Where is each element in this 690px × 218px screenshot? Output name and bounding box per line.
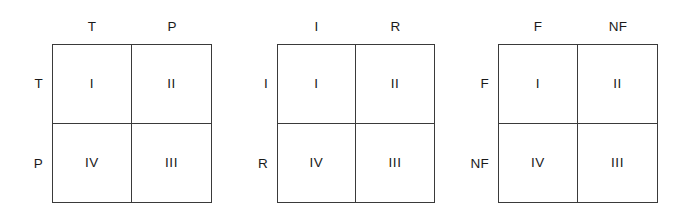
- matrix-3-row-label-1: F: [446, 44, 498, 124]
- matrix-1-column-header-2: P: [132, 18, 212, 36]
- matrix-2-column-headers: I R: [277, 18, 435, 36]
- matrix-1-quadrant-bottom-left: IV: [53, 124, 132, 203]
- matrix-1-column-header-1: T: [52, 18, 132, 36]
- matrix-2-quadrant-top-left: I: [278, 45, 356, 124]
- matrix-1-quadrant-top-left: I: [53, 45, 132, 124]
- matrix-3: F NF F NF I II IV III: [446, 0, 690, 218]
- matrix-2-row-label-1: I: [235, 44, 277, 124]
- matrix-2-grid: I II IV III: [277, 44, 435, 203]
- matrix-1-row-label-1: T: [10, 44, 52, 124]
- matrix-3-grid: I II IV III: [498, 44, 658, 203]
- matrix-3-column-header-1: F: [498, 18, 578, 36]
- matrix-2-row-labels: I R: [235, 44, 277, 203]
- matrix-1-grid: I II IV III: [52, 44, 212, 203]
- matrix-3-quadrant-bottom-right: III: [578, 124, 657, 203]
- matrix-3-quadrant-bottom-left: IV: [499, 124, 578, 203]
- matrix-2-quadrant-bottom-left: IV: [278, 124, 356, 203]
- matrix-1-quadrant-top-right: II: [132, 45, 211, 124]
- matrix-3-quadrant-top-right: II: [578, 45, 657, 124]
- matrix-2-quadrant-top-right: II: [356, 45, 434, 124]
- matrix-2-column-header-2: R: [356, 18, 435, 36]
- matrix-1-column-headers: T P: [52, 18, 212, 36]
- matrix-3-column-header-2: NF: [578, 18, 658, 36]
- matrix-2-quadrant-bottom-right: III: [356, 124, 434, 203]
- matrix-3-column-headers: F NF: [498, 18, 658, 36]
- matrix-2-row-label-2: R: [235, 124, 277, 204]
- matrix-1-row-label-2: P: [10, 124, 52, 204]
- matrix-3-row-label-2: NF: [446, 124, 498, 204]
- matrix-3-quadrant-top-left: I: [499, 45, 578, 124]
- matrix-1-quadrant-bottom-right: III: [132, 124, 211, 203]
- matrix-2-column-header-1: I: [277, 18, 356, 36]
- matrix-3-row-labels: F NF: [446, 44, 498, 203]
- figure-canvas: T P T P I II IV III I R I R I II IV III: [0, 0, 690, 218]
- matrix-1: T P T P I II IV III: [0, 0, 230, 218]
- matrix-1-row-labels: T P: [10, 44, 52, 203]
- matrix-2: I R I R I II IV III: [225, 0, 453, 218]
